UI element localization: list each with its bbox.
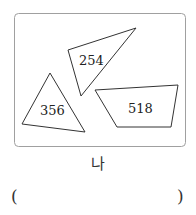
top-triangle-value: 254 [79,53,104,68]
shapes-figure: 254 356 518 [0,0,196,215]
left-triangle-value: 356 [40,103,65,118]
quadrilateral-value: 518 [128,101,153,116]
answer-open-paren: ( [11,186,18,206]
answer-close-paren: ) [177,186,184,206]
figure-caption: 나 [0,152,196,173]
